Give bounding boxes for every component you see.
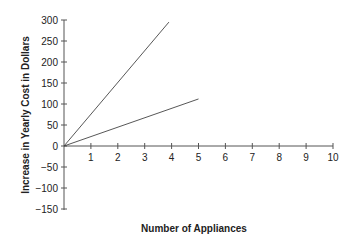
- y-tick-label: 100: [41, 99, 58, 110]
- data-series: [64, 22, 199, 146]
- y-tick-label: 300: [41, 15, 58, 26]
- y-tick-label: 0: [52, 141, 58, 152]
- x-tick-label: 7: [250, 152, 256, 163]
- y-tick-label: 250: [41, 36, 58, 47]
- x-tick-label: 6: [223, 152, 229, 163]
- y-tick-label: −50: [41, 162, 58, 173]
- y-axis-title: Increase in Yearly Cost in Dollars: [20, 36, 31, 194]
- x-axis-title: Number of Appliances: [141, 223, 247, 234]
- x-tick-label: 9: [303, 152, 309, 163]
- x-tick-label: 8: [276, 152, 282, 163]
- y-tick-label: −100: [35, 183, 58, 194]
- x-tick-label: 2: [115, 152, 121, 163]
- x-tick-label: 10: [327, 152, 339, 163]
- y-tick-label: 50: [47, 120, 59, 131]
- y-ticks: 300250200150100500−50−100−150: [35, 15, 67, 215]
- y-tick-label: 200: [41, 57, 58, 68]
- x-tick-label: 5: [196, 152, 202, 163]
- y-tick-label: −150: [35, 204, 58, 215]
- x-tick-label: 1: [88, 152, 94, 163]
- x-tick-label: 3: [142, 152, 148, 163]
- x-tick-label: 4: [169, 152, 175, 163]
- chart: 300250200150100500−50−100−150 1234567891…: [0, 0, 356, 241]
- y-tick-label: 150: [41, 78, 58, 89]
